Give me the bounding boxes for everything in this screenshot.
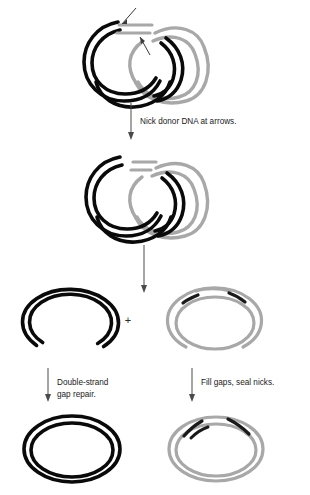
nick-arrow-left [122, 8, 136, 24]
donor-patched-bridge-segment [196, 289, 230, 291]
diagram-canvas: Nick donor DNA at arrows. + [0, 0, 310, 495]
nicked-donor-lower-arc [130, 177, 142, 218]
donor-patched-inner-ring [176, 297, 254, 349]
stage-donor-sealed-circle [169, 417, 263, 481]
nick-arrow-right [140, 37, 150, 55]
process-arrow-2 [141, 245, 147, 293]
nicked-recipient-inner [94, 165, 157, 229]
step3-left-caption-line1: Double-strand [57, 378, 109, 387]
plus-operator: + [125, 314, 131, 326]
stage-recipient-gapped-circle [22, 289, 119, 347]
nicked-recipient-crossover-outer [158, 173, 184, 236]
step3-left-caption-line2: gap repair. [57, 390, 96, 399]
donor-outer-strand-lower [130, 42, 142, 83]
step1-caption: Nick donor DNA at arrows. [140, 117, 236, 126]
sealed-outer-ring [169, 417, 263, 481]
repaired-outer-ring [24, 416, 120, 482]
recipient-inner-strand [92, 30, 156, 94]
recombination-diagram: Nick donor DNA at arrows. + [0, 0, 310, 495]
stage-donor-patched-circle [168, 288, 262, 349]
step3-right-caption: Fill gaps, seal nicks. [201, 378, 274, 387]
stage-nicked-intermediate [86, 157, 208, 242]
process-arrow-3-right [189, 368, 195, 402]
recipient-gapped-inner-ring [29, 294, 112, 344]
recipient-crossover-strand-outer [157, 38, 183, 101]
stage-recipient-repaired-circle [24, 416, 120, 482]
stage-joint-molecule [84, 8, 208, 107]
process-arrow-3-left [45, 368, 51, 402]
repaired-inner-ring [31, 423, 113, 477]
